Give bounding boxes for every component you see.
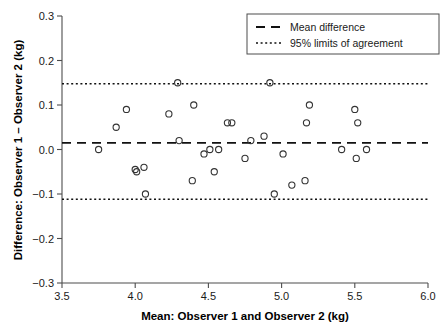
data-point [271, 191, 277, 197]
y-tick-label: 0.2 [39, 55, 54, 67]
x-tick-label: 4.0 [128, 290, 143, 302]
data-point [113, 124, 119, 130]
data-point [166, 111, 172, 117]
x-tick-label: 3.5 [54, 290, 69, 302]
tick-marks [57, 16, 428, 288]
y-tick-label: 0.1 [39, 99, 54, 111]
reference-lines [62, 84, 428, 200]
data-point [201, 151, 207, 157]
x-tick-label: 5.0 [274, 290, 289, 302]
data-point [211, 169, 217, 175]
data-point [216, 146, 222, 152]
data-point [229, 120, 235, 126]
x-axis-title: Mean: Observer 1 and Observer 2 (kg) [141, 310, 349, 322]
bland-altman-plot: 0.30.20.10.0−0.1−0.2−0.3 3.54.04.55.05.5… [0, 0, 447, 330]
x-tick-label: 4.5 [201, 290, 216, 302]
data-point [191, 102, 197, 108]
data-point [302, 178, 308, 184]
y-tick-label: −0.2 [32, 233, 54, 245]
data-point [142, 191, 148, 197]
data-point [141, 164, 147, 170]
data-point [189, 178, 195, 184]
axis-frame [62, 16, 428, 283]
chart-canvas: 0.30.20.10.0−0.1−0.2−0.3 3.54.04.55.05.5… [0, 0, 447, 330]
data-point [352, 106, 358, 112]
data-point [355, 120, 361, 126]
data-point [242, 155, 248, 161]
data-point [176, 138, 182, 144]
data-point [267, 80, 273, 86]
data-point [363, 146, 369, 152]
data-point [306, 102, 312, 108]
data-point [280, 151, 286, 157]
data-point [96, 146, 102, 152]
y-tick-label: 0.3 [39, 10, 54, 22]
data-point [175, 80, 181, 86]
legend-label-mean-difference: Mean difference [290, 21, 365, 33]
data-point [261, 133, 267, 139]
data-point [303, 120, 309, 126]
y-axis-title: Difference: Observer 1 – Observer 2 (kg) [12, 40, 24, 261]
chart-legend: Mean difference 95% limits of agreement [247, 14, 439, 54]
x-tick-label: 5.5 [347, 290, 362, 302]
data-point [339, 146, 345, 152]
legend-label-limits-of-agreement: 95% limits of agreement [290, 37, 403, 49]
y-tick-labels: 0.30.20.10.0−0.1−0.2−0.3 [32, 10, 54, 289]
y-tick-label: −0.3 [32, 277, 54, 289]
data-point [353, 155, 359, 161]
data-point [207, 146, 213, 152]
y-tick-label: −0.1 [32, 188, 54, 200]
data-point-group [96, 80, 370, 197]
data-point [123, 106, 129, 112]
x-tick-labels: 3.54.04.55.05.56.0 [54, 290, 435, 302]
y-tick-label: 0.0 [39, 144, 54, 156]
data-point [289, 182, 295, 188]
x-tick-label: 6.0 [420, 290, 435, 302]
